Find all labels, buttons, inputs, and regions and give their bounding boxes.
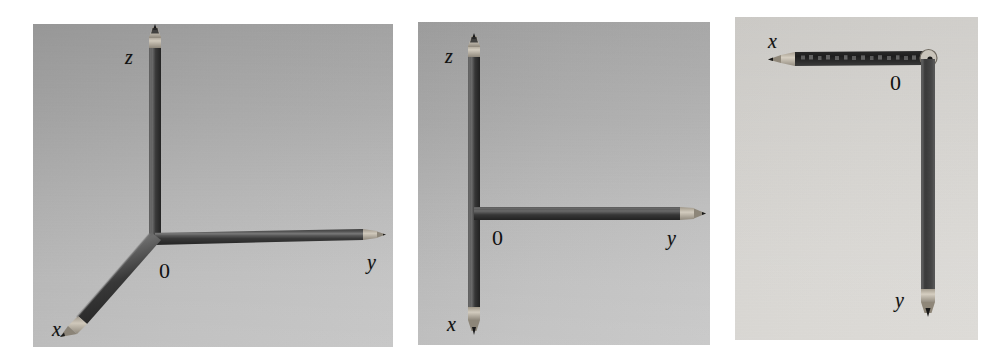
panel-right-label-origin: 0 — [890, 72, 901, 94]
panel-left-label-z: z — [125, 47, 133, 67]
panel-right-label-y: y — [895, 290, 904, 310]
pencil-axes-figure: z x y 0 — [0, 0, 1004, 364]
panel-middle-label-x: x — [447, 314, 456, 334]
panel-middle-label-z: z — [445, 46, 453, 66]
panel-middle-label-y: y — [667, 228, 676, 248]
panel-left-label-y: y — [367, 252, 376, 272]
pencil-y-axis — [921, 59, 935, 317]
panel-left-pencil-group — [33, 24, 393, 347]
pencil-z-axis — [149, 24, 161, 238]
pencil-y-axis — [155, 229, 386, 245]
panel-right: x y 0 — [735, 17, 978, 340]
panel-right-pencil-group — [735, 17, 978, 340]
panel-middle-label-origin: 0 — [492, 227, 503, 249]
panel-left-label-origin: 0 — [159, 260, 170, 282]
pencil-z-axis — [468, 33, 480, 212]
pencil-x-axis — [468, 212, 480, 335]
pencil-x-axis — [768, 50, 937, 67]
panel-middle-pencil-group — [418, 22, 710, 345]
panel-middle: z x y 0 — [418, 22, 710, 345]
panel-left-label-x: x — [52, 319, 61, 339]
panel-right-label-x: x — [768, 31, 777, 51]
pencil-y-axis — [474, 207, 706, 220]
panel-left: z x y 0 — [33, 24, 393, 347]
pencil-x-axis — [60, 232, 161, 337]
